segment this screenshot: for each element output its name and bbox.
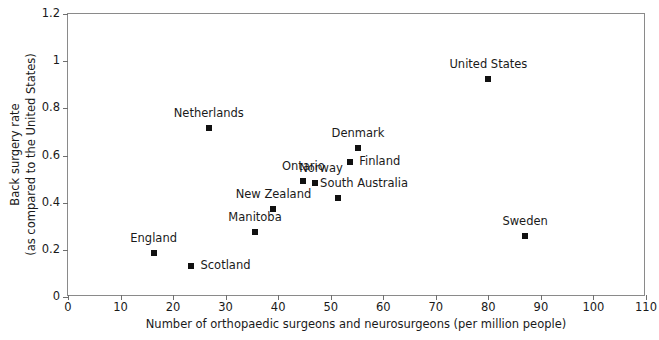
- data-point: [347, 159, 353, 165]
- x-tick-label: 70: [428, 302, 443, 314]
- y-axis-title: Back surgery rate (as compared to the Un…: [8, 13, 42, 296]
- data-point-label: United States: [449, 58, 527, 70]
- x-tick-label: 100: [582, 302, 604, 314]
- data-point-label: Denmark: [332, 127, 385, 139]
- x-tick-label: 110: [635, 302, 657, 314]
- data-point: [151, 250, 157, 256]
- y-tick-label: 0: [53, 291, 60, 303]
- scatter-plot-figure: 00.20.40.60.811.2 0102030405060708090100…: [0, 0, 659, 340]
- y-tick-mark: [63, 156, 68, 157]
- data-point: [188, 263, 194, 269]
- y-tick-label: 1.2: [42, 8, 60, 20]
- y-tick-mark: [63, 14, 68, 15]
- data-point-label: England: [130, 233, 177, 245]
- x-tick-label: 50: [323, 302, 338, 314]
- data-point-label: Netherlands: [174, 108, 244, 120]
- x-tick-label: 80: [481, 302, 496, 314]
- data-point-label: Sweden: [502, 215, 547, 227]
- plot-area: 00.20.40.60.811.2 0102030405060708090100…: [67, 13, 645, 296]
- x-tick-label: 20: [166, 302, 181, 314]
- data-point-label: South Australia: [320, 177, 408, 189]
- data-point: [206, 125, 212, 131]
- data-point: [355, 145, 361, 151]
- y-tick-label: 1: [53, 55, 60, 67]
- y-axis-title-line-1: Back surgery rate: [8, 13, 24, 296]
- x-tick-label: 10: [113, 302, 128, 314]
- data-point-label: New Zealand: [236, 188, 312, 200]
- data-point: [522, 233, 528, 239]
- data-point-label: Finland: [359, 156, 400, 168]
- x-tick-label: 30: [218, 302, 233, 314]
- x-tick-label: 0: [64, 302, 71, 314]
- data-point: [312, 180, 318, 186]
- data-point: [335, 195, 341, 201]
- data-point: [300, 178, 306, 184]
- y-axis-title-line-2: (as compared to the United States): [24, 13, 40, 296]
- data-point: [485, 76, 491, 82]
- data-point-label: Scotland: [200, 261, 250, 273]
- y-tick-label: 0.6: [42, 150, 60, 162]
- y-tick-mark: [63, 250, 68, 251]
- data-point: [270, 206, 276, 212]
- y-tick-label: 0.8: [42, 103, 60, 115]
- y-tick-label: 0.4: [42, 197, 60, 209]
- data-point-label: Manitoba: [228, 212, 281, 224]
- x-tick-label: 90: [534, 302, 549, 314]
- data-point-label: Norway: [299, 162, 343, 174]
- x-tick-label: 60: [376, 302, 391, 314]
- y-tick-mark: [63, 61, 68, 62]
- y-tick-label: 0.2: [42, 244, 60, 256]
- y-tick-mark: [63, 203, 68, 204]
- x-tick-label: 40: [271, 302, 286, 314]
- data-point: [252, 229, 258, 235]
- y-tick-mark: [63, 108, 68, 109]
- x-axis-title: Number of orthopaedic surgeons and neuro…: [67, 318, 645, 331]
